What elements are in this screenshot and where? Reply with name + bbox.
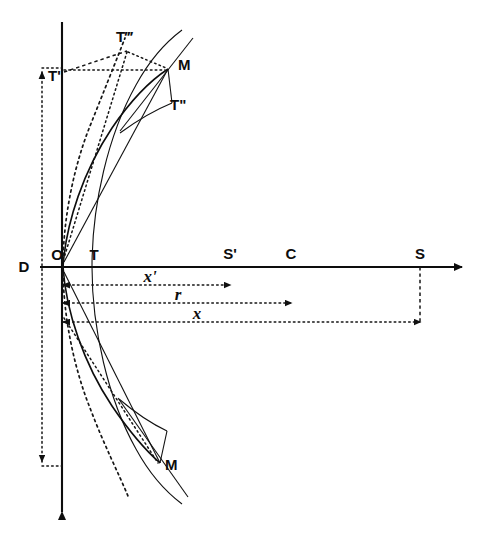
- chord-o-to-upper-m: [64, 69, 168, 262]
- label-point-M-upper: M: [178, 56, 191, 73]
- label-point-M-lower: M: [165, 456, 178, 473]
- dotted-t-triple-prime-to-origin: [64, 52, 127, 258]
- label-axis-T: T: [89, 246, 98, 263]
- label-tangent-T-prime: T': [48, 67, 61, 84]
- dotted-t-triple-prime-to-upper-m: [128, 52, 166, 68]
- dimension-lines-group: [63, 267, 421, 322]
- ray-through-lower-m: [118, 398, 188, 497]
- diagram-svg: O T S' C S D M M T' T‴ T" x' r x: [0, 0, 487, 534]
- label-dimension-x-prime: x': [142, 267, 157, 286]
- label-axis-S: S: [415, 245, 425, 262]
- label-tangent-T-double-prime: T": [170, 96, 186, 113]
- mirror-arc-dotted-lower: [63, 267, 128, 496]
- figure-root: O T S' C S D M M T' T‴ T" x' r x: [0, 0, 487, 534]
- label-axis-S-prime: S': [223, 245, 237, 262]
- chord-o-to-lower-m: [64, 272, 160, 463]
- axes-group: [40, 22, 462, 512]
- label-axis-C: C: [286, 245, 297, 262]
- label-dimension-r: r: [175, 285, 182, 304]
- dashed-t-prime-to-t-triple-prime: [64, 51, 127, 72]
- ray-through-upper-m: [120, 38, 193, 131]
- label-axis-origin: O: [51, 246, 63, 263]
- label-dimension-x: x: [192, 304, 202, 323]
- labels-group: O T S' C S D M M T' T‴ T" x' r x: [19, 28, 425, 473]
- label-aperture-D: D: [19, 258, 30, 275]
- dotted-lower-left-to-lower-m: [64, 318, 158, 463]
- label-tangent-T-triple-prime: T‴: [116, 28, 133, 45]
- mirror-arc-outer-upper: [92, 30, 182, 267]
